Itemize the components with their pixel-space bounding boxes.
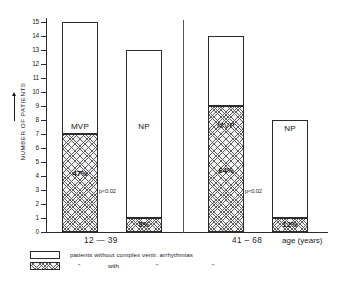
chart-legend: patients without complex ventr. arrhythm… [30, 250, 330, 272]
bar-segment-without-arrhythmias [126, 50, 162, 218]
y-tick-label-11: 11 [22, 75, 39, 82]
y-tick-label-10: 10 [22, 89, 39, 96]
bar-segment-without-arrhythmias [208, 36, 244, 106]
bar-segment-without-arrhythmias [62, 22, 98, 134]
y-tick-label-6: 6 [22, 145, 39, 152]
bar-np-12-39: NP 8% [126, 50, 162, 232]
legend-ditto-1: " [78, 262, 80, 270]
bar-label-mvp: MVP [208, 122, 244, 130]
bar-mvp-12-39: MVP 47% [62, 22, 98, 232]
y-tick-5 [41, 162, 46, 163]
bar-percent-label: 12% [272, 221, 308, 229]
significance-annotation-group2: p<0.02 [245, 189, 262, 195]
y-tick-label-8: 8 [22, 117, 39, 124]
y-tick-8 [41, 120, 46, 121]
y-tick-label-0: 0 [22, 229, 39, 236]
y-tick-1 [41, 218, 46, 219]
y-tick-3 [41, 190, 46, 191]
y-tick-9 [41, 106, 46, 107]
bar-mvp-41-68: MVP 64% [208, 36, 244, 232]
bar-label-np: NP [272, 125, 308, 133]
y-axis-arrow-icon [14, 95, 15, 121]
x-axis-label-group2: 41 – 68 [232, 236, 262, 245]
y-tick-label-12: 12 [22, 61, 39, 68]
bar-label-np: NP [126, 123, 162, 131]
chart-figure: NUMBER OF PATIENTS 15 14 13 12 11 10 9 8… [0, 0, 348, 288]
bar-label-mvp: MVP [62, 123, 98, 131]
y-tick-label-7: 7 [22, 131, 39, 138]
x-axis-label-group1: 12 — 39 [84, 236, 118, 245]
y-tick-15 [41, 22, 46, 23]
y-tick-label-2: 2 [22, 201, 39, 208]
y-tick-label-4: 4 [22, 173, 39, 180]
legend-with-text: with [108, 262, 119, 270]
y-tick-2 [41, 204, 46, 205]
y-tick-label-13: 13 [22, 47, 39, 54]
y-tick-13 [41, 50, 46, 51]
y-tick-label-15: 15 [22, 19, 39, 26]
y-axis-line [46, 18, 47, 233]
y-tick-6 [41, 148, 46, 149]
legend-ditto-3: " [212, 262, 214, 270]
y-tick-label-14: 14 [22, 33, 39, 40]
bar-percent-label: 8% [126, 221, 162, 229]
legend-label-with: " with " " [70, 262, 290, 270]
y-tick-10 [41, 92, 46, 93]
legend-swatch-hatched [30, 262, 60, 270]
bar-percent-label: 64% [208, 167, 244, 175]
legend-label-without: patients without complex ventr. arrhythm… [70, 251, 193, 259]
y-tick-11 [41, 78, 46, 79]
y-tick-label-1: 1 [22, 215, 39, 222]
y-tick-label-9: 9 [22, 103, 39, 110]
significance-annotation-group1: p<0.02 [99, 189, 116, 195]
x-axis-unit-label: age (years) [282, 236, 322, 245]
x-axis-line [46, 232, 328, 233]
y-tick-7 [41, 134, 46, 135]
bar-np-41-68: NP 12% [272, 120, 308, 232]
legend-ditto-2: " [156, 262, 158, 270]
y-tick-0 [41, 232, 46, 233]
bar-percent-label: 47% [62, 170, 98, 178]
bar-segment-with-arrhythmias [62, 134, 98, 232]
legend-row-with: " with " " [30, 261, 330, 272]
bar-segment-without-arrhythmias [272, 120, 308, 218]
y-tick-14 [41, 36, 46, 37]
y-tick-12 [41, 64, 46, 65]
legend-swatch-plain [30, 251, 60, 259]
y-tick-label-5: 5 [22, 159, 39, 166]
y-tick-label-3: 3 [22, 187, 39, 194]
legend-row-without: patients without complex ventr. arrhythm… [30, 250, 330, 261]
group-divider-line [183, 20, 184, 233]
y-tick-4 [41, 176, 46, 177]
